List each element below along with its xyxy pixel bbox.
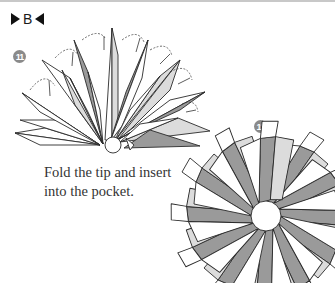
step-12-diagram bbox=[0, 0, 335, 283]
step-12-caption: Fold the tip and insert into the pocket. bbox=[44, 163, 194, 201]
